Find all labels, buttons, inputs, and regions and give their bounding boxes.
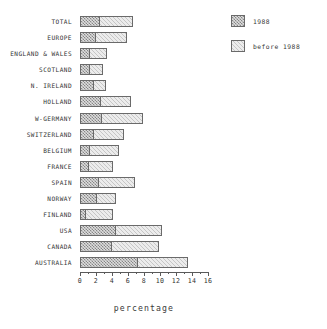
x-axis-tick-label: 0 [78,277,82,285]
x-axis-major-tick [96,272,97,276]
category-label: TOTAL [0,14,76,30]
category-label: W-GERMANY [0,111,76,127]
bar-segment-before-1988 [99,16,133,27]
bar-row [80,94,208,110]
stacked-bar [80,16,133,27]
x-axis-title: percentage [80,303,208,313]
bar-row [80,239,208,255]
bar-row [80,62,208,78]
stacked-bar [80,129,124,140]
x-axis-line [80,272,208,273]
bar-row [80,30,208,46]
bar-segment-before-1988 [95,32,127,43]
x-axis-minor-tick [120,272,121,274]
bar-segment-before-1988 [101,113,143,124]
stacked-bar-chart: TOTALEUROPEENGLAND & WALESSCOTLANDN. IRE… [0,0,327,329]
x-axis-major-tick [192,272,193,276]
stacked-bar [80,161,113,172]
x-axis-major-tick [144,272,145,276]
stacked-bar [80,225,162,236]
stacked-bar [80,113,143,124]
category-label: SPAIN [0,175,76,191]
x-axis-tick-label: 14 [188,277,197,285]
category-label: HOLLAND [0,94,76,110]
bar-segment-before-1988 [137,257,187,268]
bar-row [80,207,208,223]
legend-item-1988: 1988 [231,14,300,28]
x-axis-major-tick [80,272,81,276]
legend: 1988 before 1988 [231,14,300,64]
category-label: N. IRELAND [0,78,76,94]
bar-segment-1988 [80,177,99,188]
bar-segment-1988 [80,129,94,140]
bar-segment-before-1988 [89,145,119,156]
x-axis-major-tick [160,272,161,276]
x-axis-minor-tick [152,272,153,274]
bar-row [80,78,208,94]
bar-segment-before-1988 [93,129,124,140]
x-axis-tick-label: 6 [126,277,130,285]
stacked-bar [80,177,135,188]
bar-segment-before-1988 [93,80,106,91]
x-axis-minor-tick [88,272,89,274]
stacked-bar [80,32,127,43]
bar-segment-1988 [80,16,100,27]
category-label: SWITZERLAND [0,127,76,143]
x-axis-major-tick [176,272,177,276]
bar-segment-before-1988 [89,48,107,59]
bar-segment-1988 [80,257,138,268]
category-label: SCOTLAND [0,62,76,78]
bar-row [80,191,208,207]
x-axis-tick-label: 8 [142,277,146,285]
bar-segment-before-1988 [100,96,131,107]
stacked-bar [80,145,119,156]
stacked-bar [80,257,188,268]
bar-row [80,159,208,175]
stacked-bar [80,64,103,75]
legend-swatch-1988 [231,15,245,27]
bar-row [80,175,208,191]
category-label: BELGIUM [0,143,76,159]
category-label: NORWAY [0,191,76,207]
legend-item-before-1988: before 1988 [231,39,300,53]
bar-segment-1988 [80,193,97,204]
x-axis-minor-tick [168,272,169,274]
x-axis-major-tick [208,272,209,276]
bar-row [80,46,208,62]
x-axis-major-tick [128,272,129,276]
legend-label-1988: 1988 [253,18,270,25]
bar-row [80,111,208,127]
bar-segment-before-1988 [89,64,103,75]
x-axis-tick-labels: 0246810121416 [0,277,327,289]
x-axis-tick-label: 10 [156,277,165,285]
x-axis-tick-label: 16 [204,277,213,285]
stacked-bar [80,193,116,204]
bar-row [80,127,208,143]
bar-segment-before-1988 [115,225,162,236]
bar-segment-before-1988 [111,241,159,252]
x-axis-minor-tick [104,272,105,274]
bar-row [80,223,208,239]
bar-segment-1988 [80,225,116,236]
bar-segment-1988 [80,241,112,252]
category-label: CANADA [0,239,76,255]
bar-row [80,14,208,30]
bar-segment-1988 [80,80,94,91]
bar-row [80,255,208,271]
stacked-bar [80,96,131,107]
stacked-bar [80,80,106,91]
stacked-bar [80,241,159,252]
x-axis-tick-label: 2 [94,277,98,285]
legend-swatch-before-1988 [231,40,245,52]
x-axis-major-tick [112,272,113,276]
x-axis-tick-label: 4 [110,277,114,285]
bar-segment-before-1988 [98,177,135,188]
category-label: FINLAND [0,207,76,223]
bar-segment-before-1988 [85,209,114,220]
x-axis-minor-tick [184,272,185,274]
legend-label-before-1988: before 1988 [253,43,300,50]
x-axis-minor-tick [200,272,201,274]
bar-segment-before-1988 [96,193,116,204]
bar-segment-1988 [80,32,96,43]
stacked-bar [80,48,107,59]
